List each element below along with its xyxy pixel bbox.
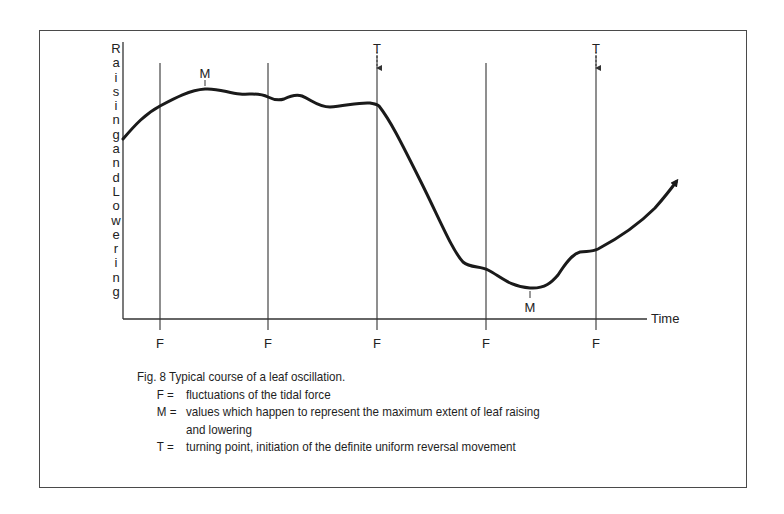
x-axis-label: Time bbox=[651, 311, 679, 326]
caption-key: M = bbox=[137, 403, 186, 421]
y-axis-label: R a i s i n g a n d L o w e r i n g bbox=[110, 42, 122, 299]
y-label-char: s bbox=[110, 85, 122, 99]
y-label-char: L bbox=[110, 185, 122, 199]
y-label-char: n bbox=[110, 156, 122, 170]
y-label-char: g bbox=[110, 128, 122, 142]
y-label-char: o bbox=[110, 199, 122, 213]
x-tick-label-5: F bbox=[592, 336, 600, 351]
x-tick-label-2: F bbox=[264, 336, 272, 351]
y-label-char: i bbox=[110, 71, 122, 85]
caption-item-m: M = values which happen to represent the… bbox=[137, 403, 540, 421]
m-marker-label-max: M bbox=[200, 66, 211, 81]
caption-desc: fluctuations of the tidal force bbox=[186, 386, 331, 404]
y-label-char: a bbox=[110, 142, 122, 156]
y-label-char: i bbox=[110, 99, 122, 113]
y-label-char: R bbox=[110, 42, 122, 56]
y-label-char: d bbox=[110, 171, 122, 185]
y-label-char: n bbox=[110, 113, 122, 127]
x-tick-label-1: F bbox=[156, 336, 164, 351]
y-label-char: w bbox=[110, 214, 122, 228]
caption-desc: turning point, initiation of the definit… bbox=[186, 438, 516, 456]
caption-desc: values which happen to represent the max… bbox=[186, 403, 540, 421]
caption-desc-continued: and lowering bbox=[137, 421, 252, 439]
y-label-char: i bbox=[110, 256, 122, 270]
x-tick-label-4: F bbox=[482, 336, 490, 351]
y-label-char: e bbox=[110, 228, 122, 242]
oscillation-curve bbox=[123, 89, 676, 288]
m-marker-label-min: M bbox=[525, 300, 536, 315]
y-label-char: n bbox=[110, 271, 122, 285]
caption-item-f: F = fluctuations of the tidal force bbox=[137, 386, 540, 404]
y-label-char: r bbox=[110, 242, 122, 256]
t-marker-label-1: T bbox=[373, 41, 381, 56]
caption-title: Fig. 8 Typical course of a leaf oscillat… bbox=[137, 368, 540, 386]
caption-item-t: T = turning point, initiation of the def… bbox=[137, 438, 540, 456]
y-label-char: g bbox=[110, 285, 122, 299]
figure-caption: Fig. 8 Typical course of a leaf oscillat… bbox=[137, 368, 540, 456]
t-marker-label-2: T bbox=[592, 41, 600, 56]
x-tick-label-3: F bbox=[373, 336, 381, 351]
y-label-char: a bbox=[110, 56, 122, 70]
caption-key: F = bbox=[137, 386, 186, 404]
caption-item-m-cont: and lowering bbox=[137, 421, 540, 439]
caption-key: T = bbox=[137, 438, 186, 456]
